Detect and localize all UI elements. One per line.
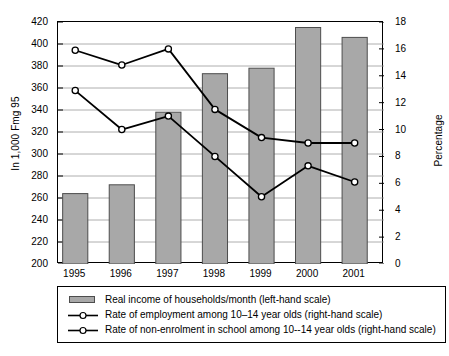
- chart-figure: In 1,000 Fmg 95 Percentage 2002202402602…: [0, 0, 449, 356]
- plot-svg: [58, 22, 384, 264]
- line-marker-icon: [67, 323, 99, 336]
- x-axis-tick-label: 2001: [331, 268, 377, 279]
- legend-label-employment-rate: Rate of employment among 10–14 year olds…: [105, 309, 382, 321]
- legend-item-non-enrolment-rate: Rate of non-enrolment in school among 10…: [58, 322, 445, 337]
- x-axis-tick-label: 1995: [51, 268, 97, 279]
- legend-item-real-income: Real income of households/month (left-ha…: [58, 292, 445, 307]
- x-axis-tick-label: 1998: [191, 268, 237, 279]
- bar-swatch-icon: [67, 293, 99, 306]
- chart-legend: Real income of households/month (left-ha…: [57, 286, 446, 343]
- x-axis-tick-label: 1996: [98, 268, 144, 279]
- legend-item-employment-rate: Rate of employment among 10–14 year olds…: [58, 307, 445, 322]
- x-axis-tick-label: 2000: [284, 268, 330, 279]
- x-axis-tick-label: 1999: [238, 268, 284, 279]
- legend-label-non-enrolment-rate: Rate of non-enrolment in school among 10…: [105, 324, 436, 336]
- line-marker-icon: [67, 308, 99, 321]
- plot-area: [57, 21, 383, 263]
- legend-label-real-income: Real income of households/month (left-ha…: [105, 294, 331, 306]
- x-axis-tick-label: 1997: [144, 268, 190, 279]
